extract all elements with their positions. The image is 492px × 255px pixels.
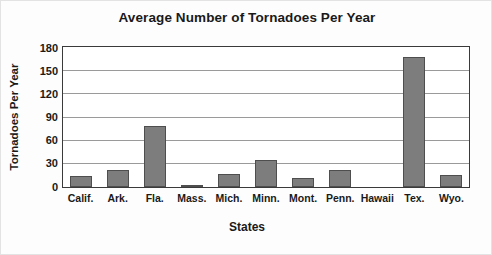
chart-figure: Average Number of Tornadoes Per Year Tor… <box>0 0 492 255</box>
bar[interactable] <box>255 160 277 187</box>
x-axis-tick-label: Wyo. <box>433 191 470 207</box>
x-axis-tick-label: Tex. <box>396 191 433 207</box>
bar[interactable] <box>144 126 166 187</box>
bar[interactable] <box>329 170 351 187</box>
y-axis-tick-label: 30 <box>25 158 58 169</box>
y-axis-tick-label: 90 <box>25 112 58 123</box>
y-axis-tick-label: 180 <box>25 42 58 53</box>
y-axis-title-text: Tornadoes Per Year <box>8 64 20 171</box>
bar-slot <box>100 47 137 187</box>
bar[interactable] <box>218 174 240 187</box>
bar-series <box>63 47 469 187</box>
x-axis-tick-label: Fla. <box>136 191 173 207</box>
x-axis-tick-label: Minn. <box>247 191 284 207</box>
bar-slot <box>137 47 174 187</box>
bar[interactable] <box>181 185 203 187</box>
y-axis-tick-label: 0 <box>25 181 58 192</box>
bar[interactable] <box>70 176 92 187</box>
x-axis-tick-label: Mass. <box>173 191 210 207</box>
bar-slot <box>248 47 285 187</box>
plot-area <box>62 46 470 188</box>
x-axis-tick-label: Calif. <box>62 191 99 207</box>
bar-slot <box>395 47 432 187</box>
bar[interactable] <box>292 178 314 187</box>
bar-slot <box>284 47 321 187</box>
bar[interactable] <box>107 170 129 187</box>
bar-slot <box>174 47 211 187</box>
x-axis-tick-label: Hawaii <box>359 191 396 207</box>
bar-slot <box>358 47 395 187</box>
x-axis-tick-label: Ark. <box>99 191 136 207</box>
bar[interactable] <box>440 175 462 187</box>
bar-slot <box>211 47 248 187</box>
x-axis-tick-labels: Calif.Ark.Fla.Mass.Mich.Minn.Mont.Penn.H… <box>62 191 470 207</box>
y-axis-title: Tornadoes Per Year <box>3 41 25 193</box>
y-axis-tick-label: 120 <box>25 88 58 99</box>
bar[interactable] <box>403 57 425 188</box>
y-axis-tick-label: 150 <box>25 65 58 76</box>
x-axis-title: States <box>1 220 492 234</box>
bar-slot <box>432 47 469 187</box>
y-axis-tick-labels: 0306090120150180 <box>25 41 61 193</box>
x-axis-tick-label: Penn. <box>322 191 359 207</box>
chart-title: Average Number of Tornadoes Per Year <box>1 10 492 25</box>
y-axis-tick-label: 60 <box>25 135 58 146</box>
bar-slot <box>321 47 358 187</box>
x-axis-tick-label: Mont. <box>285 191 322 207</box>
x-axis-tick-label: Mich. <box>210 191 247 207</box>
bar-slot <box>63 47 100 187</box>
